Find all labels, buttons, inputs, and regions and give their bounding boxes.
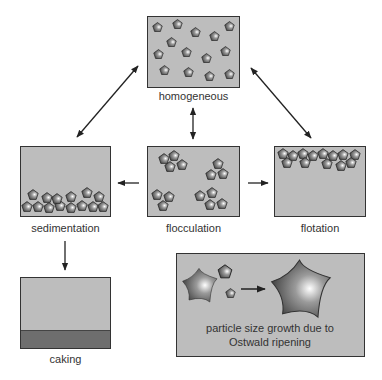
arrow-homogeneous-sedimentation [77, 66, 138, 137]
arrows-layer [0, 0, 382, 380]
arrow-homogeneous-flotation [251, 68, 311, 138]
